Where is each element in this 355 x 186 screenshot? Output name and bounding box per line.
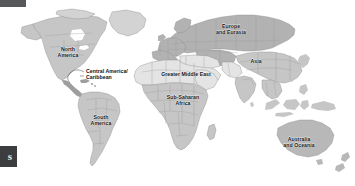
antilles-dot-2 — [94, 85, 96, 87]
world-region-map-page: North America Central America/ Caribbean… — [0, 0, 355, 186]
badge-glyph: s — [8, 151, 12, 162]
antilles-dot-1 — [91, 83, 93, 85]
world-map-svg — [0, 0, 355, 186]
corner-badge[interactable]: s — [0, 146, 17, 167]
top-left-chrome-bar — [0, 0, 26, 7]
world-map-figure: North America Central America/ Caribbean… — [0, 0, 355, 186]
